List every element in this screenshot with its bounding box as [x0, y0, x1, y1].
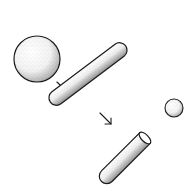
diagram-svg	[0, 0, 193, 191]
short-cut-rod	[96, 130, 153, 187]
arrow-2-icon	[100, 113, 111, 124]
large-sphere	[14, 36, 60, 82]
diagram-canvas	[0, 0, 193, 191]
small-sphere	[165, 99, 183, 117]
